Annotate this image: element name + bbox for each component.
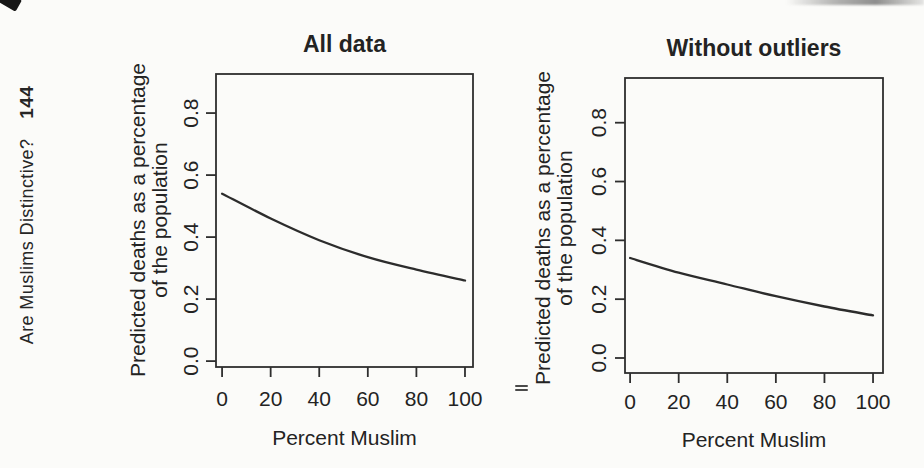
x-tick-label: 100 bbox=[856, 390, 891, 413]
y-tick-label: 0.6 bbox=[587, 167, 610, 196]
y-tick-label: 0.4 bbox=[587, 225, 610, 255]
y-tick-label: 0.2 bbox=[179, 284, 202, 313]
x-tick-label: 40 bbox=[308, 387, 331, 410]
chart-title: All data bbox=[303, 31, 386, 57]
y-tick-label: 0.4 bbox=[179, 222, 202, 252]
x-tick-label: 80 bbox=[405, 387, 428, 410]
x-axis-label: Percent Muslim bbox=[682, 428, 827, 451]
curve bbox=[222, 194, 465, 281]
plot-box bbox=[216, 74, 473, 367]
chart-title: Without outliers bbox=[667, 35, 842, 61]
y-axis-label: Predicted deaths as a percentage bbox=[126, 63, 149, 377]
scanned-book-page: Are Muslims Distinctive?144 020406080100… bbox=[0, 0, 924, 468]
x-tick-label: 20 bbox=[259, 387, 282, 410]
figure-two-line-charts: 0204060801000.00.20.40.60.8All dataPerce… bbox=[0, 0, 924, 468]
x-tick-label: 40 bbox=[716, 390, 739, 413]
y-tick-label: 0.0 bbox=[179, 346, 202, 375]
x-axis-label: Percent Muslim bbox=[272, 426, 417, 449]
y-tick-label: 0.0 bbox=[587, 343, 610, 372]
y-tick-label: 0.2 bbox=[587, 285, 610, 314]
x-tick-label: 0 bbox=[624, 390, 636, 413]
y-tick-label: 0.8 bbox=[179, 98, 202, 127]
curve bbox=[630, 258, 873, 315]
x-tick-label: 0 bbox=[216, 387, 228, 410]
y-tick-label: 0.8 bbox=[587, 108, 610, 137]
plot-box bbox=[625, 78, 883, 373]
x-tick-label: 100 bbox=[447, 387, 482, 410]
y-tick-label: 0.6 bbox=[179, 160, 202, 189]
y-axis-label: of the population bbox=[553, 150, 576, 305]
x-tick-label: 60 bbox=[764, 390, 787, 413]
y-axis-label: Predicted deaths as a percentage bbox=[531, 71, 554, 385]
x-tick-label: 20 bbox=[667, 390, 690, 413]
x-tick-label: 60 bbox=[356, 387, 379, 410]
y-axis-label: of the population bbox=[148, 142, 171, 297]
x-tick-label: 80 bbox=[813, 390, 836, 413]
